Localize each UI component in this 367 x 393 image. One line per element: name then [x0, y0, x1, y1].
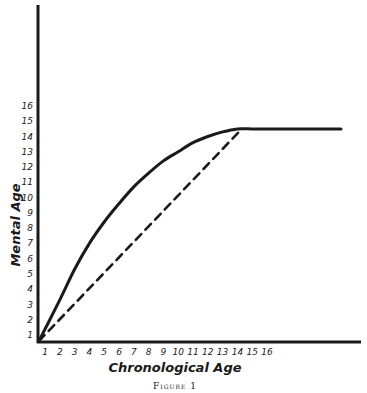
mental-growth-curve [39, 129, 341, 341]
linear-reference-line [39, 129, 242, 341]
x-tick-label: 1 [42, 347, 48, 357]
y-tick-label: 13 [22, 147, 34, 157]
y-tick-label: 12 [22, 162, 34, 172]
x-tick-label: 16 [261, 347, 273, 357]
x-tick-label: 12 [202, 347, 214, 357]
x-tick-label: 6 [116, 347, 122, 357]
y-tick-label: 10 [22, 193, 34, 203]
y-tick-label: 11 [22, 177, 33, 187]
x-tick-label: 3 [72, 347, 78, 357]
x-tick-label: 9 [161, 347, 167, 357]
series-layer [39, 129, 341, 341]
chart: 12345678910111213141516 1234567891011121… [0, 0, 367, 393]
x-tick-label: 5 [101, 347, 107, 357]
y-tick-label: 3 [27, 300, 33, 310]
x-axis-label: Chronological Age [108, 360, 241, 375]
x-tick-label: 14 [232, 347, 244, 357]
y-tick-label: 5 [27, 269, 33, 279]
figure-caption: Figure 1 [153, 381, 197, 391]
x-tick-label: 11 [187, 347, 198, 357]
y-tick-label: 9 [27, 208, 33, 218]
x-tick-label: 4 [87, 347, 93, 357]
y-tick-label: 4 [27, 284, 33, 294]
x-tick-label: 2 [57, 347, 63, 357]
y-tick-label: 1 [27, 330, 33, 340]
y-tick-labels: 12345678910111213141516 [22, 101, 34, 340]
y-tick-label: 7 [27, 238, 33, 248]
x-tick-label: 10 [172, 347, 184, 357]
x-tick-label: 13 [217, 347, 229, 357]
y-tick-label: 6 [27, 254, 33, 264]
y-tick-label: 2 [27, 315, 33, 325]
y-tick-label: 8 [27, 223, 33, 233]
x-tick-labels: 12345678910111213141516 [42, 347, 273, 357]
y-tick-label: 16 [22, 101, 34, 111]
y-axis-label: Mental Age [8, 183, 23, 266]
x-tick-label: 7 [131, 347, 137, 357]
y-tick-label: 15 [22, 116, 34, 126]
x-tick-label: 15 [246, 347, 258, 357]
y-tick-label: 14 [22, 132, 34, 142]
x-tick-label: 8 [146, 347, 152, 357]
